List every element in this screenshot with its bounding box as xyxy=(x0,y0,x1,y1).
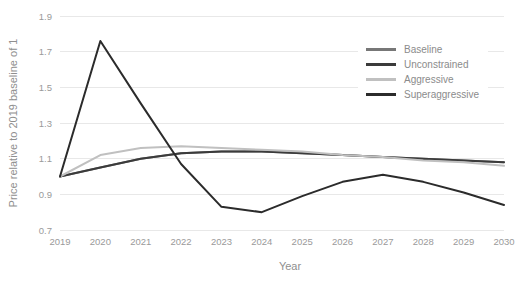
legend-swatch-icon xyxy=(366,63,396,66)
legend-swatch-icon xyxy=(366,93,396,96)
y-axis-tick-label: 1.1 xyxy=(39,153,52,164)
line-chart: 0.70.91.11.31.51.71.9 201920202021202220… xyxy=(0,0,515,281)
series-line xyxy=(60,152,504,177)
y-axis-tick-label: 1.5 xyxy=(39,82,52,93)
x-axis-tick-label: 2022 xyxy=(171,236,192,247)
y-axis-tick-label: 1.7 xyxy=(39,46,52,57)
y-axis-tick-label: 1.3 xyxy=(39,118,52,129)
y-axis-title: Price relative to 2019 baseline of 1 xyxy=(7,39,19,208)
x-axis-tick-label: 2026 xyxy=(332,236,353,247)
x-axis-tick-label: 2021 xyxy=(130,236,151,247)
x-axis-tick-labels: 2019202020212022202320242025202620272028… xyxy=(49,236,514,247)
x-axis-tick-label: 2027 xyxy=(372,236,393,247)
legend-item[interactable]: Unconstrained xyxy=(366,57,479,72)
chart-legend: Baseline Unconstrained Aggressive Supera… xyxy=(358,35,488,109)
legend-item-label: Unconstrained xyxy=(404,59,468,70)
legend-item-label: Baseline xyxy=(404,44,442,55)
x-axis-tick-label: 2024 xyxy=(251,236,272,247)
legend-item-label: Aggressive xyxy=(404,74,453,85)
legend-item[interactable]: Aggressive xyxy=(366,72,479,87)
x-axis-tick-label: 2020 xyxy=(90,236,111,247)
y-axis-tick-label: 1.9 xyxy=(39,11,52,22)
x-axis-tick-label: 2029 xyxy=(453,236,474,247)
x-axis-tick-label: 2023 xyxy=(211,236,232,247)
legend-swatch-icon xyxy=(366,78,396,81)
legend-item[interactable]: Superaggressive xyxy=(366,87,479,102)
x-axis-tick-label: 2025 xyxy=(292,236,313,247)
legend-item-label: Superaggressive xyxy=(404,89,479,100)
x-axis-title: Year xyxy=(279,260,302,272)
y-axis-tick-label: 0.9 xyxy=(39,189,52,200)
legend-item[interactable]: Baseline xyxy=(366,42,479,57)
y-axis-tick-labels: 0.70.91.11.31.51.71.9 xyxy=(39,11,52,236)
series-line xyxy=(60,152,504,177)
y-axis-tick-label: 0.7 xyxy=(39,225,52,236)
x-axis-tick-label: 2030 xyxy=(493,236,514,247)
x-axis-tick-label: 2019 xyxy=(49,236,70,247)
legend-swatch-icon xyxy=(366,48,396,51)
x-axis-tick-label: 2028 xyxy=(413,236,434,247)
